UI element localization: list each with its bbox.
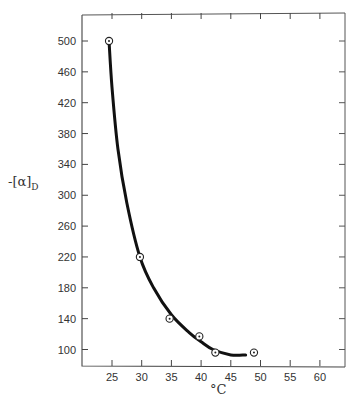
- x-tick-label: 30: [136, 371, 148, 383]
- y-axis-ticks: 100140180220260300340380420460500: [58, 35, 345, 356]
- data-point-marker: [136, 253, 143, 260]
- x-tick-label: 35: [165, 371, 177, 383]
- plot-frame: [82, 13, 345, 367]
- y-tick-label: 260: [58, 220, 76, 232]
- y-tick-label: 300: [58, 189, 76, 201]
- x-tick-label: 45: [225, 371, 237, 383]
- data-point-marker: [166, 315, 173, 322]
- data-point-marker: [105, 37, 112, 44]
- y-tick-label: 140: [58, 313, 76, 325]
- chart: 2530354045505560 10014018022026030034038…: [0, 0, 360, 405]
- y-tick-label: 460: [58, 66, 76, 78]
- data-point-marker: [196, 333, 203, 340]
- data-points: [105, 37, 257, 356]
- data-point-marker: [212, 349, 219, 356]
- y-tick-label: 220: [58, 251, 76, 263]
- data-point-marker: [250, 349, 257, 356]
- x-tick-label: 50: [254, 371, 266, 383]
- y-tick-label: 500: [58, 35, 76, 47]
- y-tick-label: 180: [58, 282, 76, 294]
- x-tick-label: 25: [106, 371, 118, 383]
- y-tick-label: 380: [58, 128, 76, 140]
- y-axis-label: -[α]D: [8, 174, 39, 192]
- x-axis-ticks: 2530354045505560: [106, 13, 326, 383]
- x-axis-label: °C: [210, 382, 227, 397]
- x-tick-label: 60: [314, 371, 326, 383]
- x-tick-label: 40: [195, 371, 207, 383]
- x-tick-label: 55: [284, 371, 296, 383]
- y-tick-label: 100: [58, 344, 76, 356]
- y-tick-label: 420: [58, 97, 76, 109]
- y-tick-label: 340: [58, 158, 76, 170]
- fitted-curve: [109, 41, 246, 355]
